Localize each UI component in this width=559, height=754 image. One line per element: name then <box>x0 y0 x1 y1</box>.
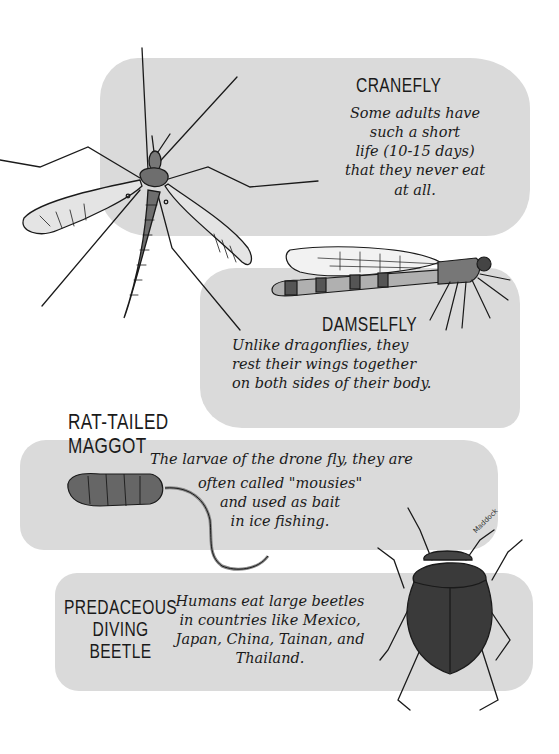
diving-beetle-description: Humans eat large beetles in countries li… <box>170 592 370 669</box>
cranefly-icon <box>0 48 318 330</box>
cranefly-description: Some adults have such a short life (10-1… <box>315 104 515 200</box>
damselfly-title: DAMSELFLY <box>322 313 417 335</box>
diving-beetle-icon <box>378 508 522 710</box>
damselfly-description: Unlike dragonflies, they rest their wing… <box>232 336 482 393</box>
cranefly-title: CRANEFLY <box>356 74 441 96</box>
diving-beetle-title: PREDACEOUS DIVING BEETLE <box>64 596 177 662</box>
rat-tailed-maggot-description-line1: The larvae of the drone fly, they are <box>150 450 500 469</box>
rat-tailed-maggot-description: often called "mousies" and used as bait … <box>195 474 365 531</box>
